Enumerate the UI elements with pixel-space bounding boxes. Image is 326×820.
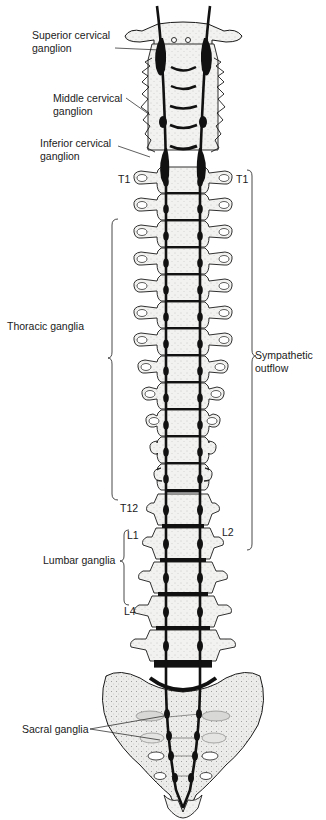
thoracic-brace [108, 219, 118, 500]
thoracolumbar-vertebrae [131, 167, 236, 668]
label-middle-cervical-ganglion: Middle cervical ganglion [53, 92, 122, 117]
spine-illustration [0, 0, 326, 820]
marker-l4: L4 [124, 605, 136, 618]
label-inferior-cervical-ganglion: Inferior cervical ganglion [40, 137, 111, 162]
spine-sympathetic-diagram: Superior cervical ganglion Middle cervic… [0, 0, 326, 820]
sacrum [102, 672, 263, 818]
middle-cervical-ganglion-left [159, 116, 167, 128]
label-thoracic-ganglia: Thoracic ganglia [7, 320, 84, 333]
label-lumbar-ganglia: Lumbar ganglia [43, 554, 115, 567]
marker-t12: T12 [120, 502, 138, 515]
label-sacral-ganglia: Sacral ganglia [22, 723, 89, 736]
label-superior-cervical-ganglion: Superior cervical ganglion [32, 29, 110, 54]
cervical-vertebrae [125, 22, 242, 152]
middle-cervical-ganglion-right [199, 116, 207, 128]
label-sympathetic-outflow: Sympathetic outflow [255, 349, 313, 374]
marker-l2: L2 [222, 526, 234, 539]
marker-l1: L1 [127, 529, 139, 542]
marker-t1-right: T1 [236, 173, 248, 186]
marker-t1-left: T1 [118, 173, 130, 186]
